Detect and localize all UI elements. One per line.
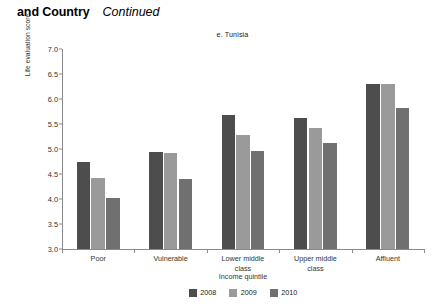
chart-legend: 200820092010 [62, 288, 424, 297]
bar-group [366, 49, 409, 249]
legend-item-2010: 2010 [270, 288, 298, 297]
page-title-continued: Continued [103, 5, 160, 19]
y-axis-tick-mark [59, 99, 62, 100]
bar-2010 [251, 151, 265, 250]
bar-2010 [106, 198, 120, 249]
x-axis-tick-mark [424, 249, 425, 253]
y-axis-tick-mark [59, 124, 62, 125]
x-axis-category-line: Lower middle [207, 254, 279, 264]
y-axis-label: Life evaluation score [24, 0, 31, 100]
chart-page: and CountryContinued e. Tunisia Life eva… [0, 0, 435, 306]
bar-2008 [77, 162, 91, 250]
legend-label: 2009 [241, 288, 257, 297]
legend-label: 2010 [281, 288, 297, 297]
bar-2008 [149, 152, 163, 250]
bar-2008 [366, 84, 380, 249]
bar-group [294, 49, 337, 249]
x-axis-label: Income quintile [62, 272, 424, 281]
bar-2010 [323, 143, 337, 250]
x-axis-line [62, 249, 424, 250]
x-axis-category-label: Poor [62, 254, 134, 264]
legend-item-2009: 2009 [229, 288, 257, 297]
page-title: and CountryContinued [17, 2, 160, 20]
bar-2008 [294, 118, 308, 249]
bar-group [149, 49, 192, 249]
legend-swatch-icon [229, 289, 237, 297]
x-axis-category-label: Vulnerable [134, 254, 206, 264]
x-axis-category-line: Vulnerable [134, 254, 206, 264]
y-axis-tick-mark [59, 224, 62, 225]
x-axis-category-label: Lower middleclass [207, 254, 279, 273]
bar-2009 [236, 135, 250, 249]
y-axis-tick-mark [59, 174, 62, 175]
x-axis-tick-mark [134, 249, 135, 253]
x-axis-category-label: Affluent [352, 254, 424, 264]
bar-2008 [222, 115, 236, 249]
chart-subtitle: e. Tunisia [0, 30, 435, 39]
x-axis-tick-mark [352, 249, 353, 253]
legend-swatch-icon [270, 289, 278, 297]
bar-2010 [396, 108, 410, 250]
x-axis-tick-mark [279, 249, 280, 253]
bar-2009 [309, 128, 323, 249]
x-axis-category-line: Upper middle [279, 254, 351, 264]
x-axis-category-line: class [207, 264, 279, 274]
x-axis-category-line: class [279, 264, 351, 274]
x-axis-category-line: Poor [62, 254, 134, 264]
bar-group [77, 49, 120, 249]
legend-label: 2008 [200, 288, 216, 297]
bar-group [222, 49, 265, 249]
bar-2009 [91, 178, 105, 249]
x-axis-tick-mark [62, 249, 63, 253]
y-axis-tick-mark [59, 49, 62, 50]
legend-item-2008: 2008 [189, 288, 217, 297]
x-axis-tick-mark [207, 249, 208, 253]
bar-2010 [179, 179, 193, 249]
bar-2009 [381, 84, 395, 249]
y-axis-tick-mark [59, 74, 62, 75]
legend-swatch-icon [189, 289, 197, 297]
x-axis-category-line: Affluent [352, 254, 424, 264]
x-axis-category-label: Upper middleclass [279, 254, 351, 273]
plot-area: 3.03.54.04.55.05.56.06.57.0 [62, 49, 424, 249]
bar-2009 [164, 153, 178, 249]
y-axis-tick-mark [59, 149, 62, 150]
y-axis-tick-mark [59, 199, 62, 200]
